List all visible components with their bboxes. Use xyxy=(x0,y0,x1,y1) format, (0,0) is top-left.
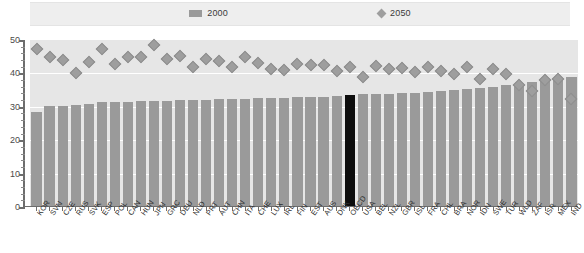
bar-slot-IND[interactable] xyxy=(565,40,578,207)
bar-2000-DEU[interactable] xyxy=(175,100,185,207)
bar-slot-WLD[interactable] xyxy=(513,40,526,207)
bar-slot-AUS[interactable] xyxy=(317,40,330,207)
bar-slot-FIN[interactable] xyxy=(291,40,304,207)
bar-2000-JPN[interactable] xyxy=(149,101,159,207)
bar-slot-AUT[interactable] xyxy=(213,40,226,207)
bar-slot-PRT[interactable] xyxy=(200,40,213,207)
marker-2050-IDN[interactable] xyxy=(474,72,487,85)
marker-2050-SVN[interactable] xyxy=(43,50,56,63)
bar-slot-BEL[interactable] xyxy=(369,40,382,207)
bar-2000-IDN[interactable] xyxy=(475,88,485,207)
marker-2050-LUX[interactable] xyxy=(265,63,278,76)
bar-slot-LUX[interactable] xyxy=(265,40,278,207)
bar-2000-USA[interactable] xyxy=(358,94,368,207)
marker-2050-ISL[interactable] xyxy=(409,66,422,79)
marker-2050-CHE[interactable] xyxy=(252,56,265,69)
bar-2000-FRA[interactable] xyxy=(423,92,433,207)
marker-2050-RUS[interactable] xyxy=(69,66,82,79)
marker-2050-NZL[interactable] xyxy=(382,63,395,76)
bar-2000-SVN[interactable] xyxy=(44,106,54,207)
marker-2050-ITA[interactable] xyxy=(239,51,252,64)
bar-slot-NLD[interactable] xyxy=(187,40,200,207)
bar-2000-AUT[interactable] xyxy=(214,99,224,207)
bar-2000-LUX[interactable] xyxy=(266,98,276,207)
marker-2050-GBR[interactable] xyxy=(395,62,408,75)
bar-slot-ITA[interactable] xyxy=(239,40,252,207)
bar-2000-NZL[interactable] xyxy=(384,94,394,207)
bar-slot-SVK[interactable] xyxy=(82,40,95,207)
bar-slot-FRA[interactable] xyxy=(421,40,434,207)
bar-slot-OECD[interactable] xyxy=(343,40,356,207)
bar-slot-BRA[interactable] xyxy=(448,40,461,207)
bar-slot-MEX[interactable] xyxy=(552,40,565,207)
bar-slot-ISR[interactable] xyxy=(539,40,552,207)
bar-2000-EST[interactable] xyxy=(305,97,315,207)
bar-slot-ESP[interactable] xyxy=(95,40,108,207)
bar-2000-CHE[interactable] xyxy=(253,98,263,207)
marker-2050-SVK[interactable] xyxy=(82,55,95,68)
bar-slot-NZL[interactable] xyxy=(382,40,395,207)
marker-2050-POL[interactable] xyxy=(108,58,121,71)
marker-2050-JPN[interactable] xyxy=(148,39,161,52)
bar-slot-EST[interactable] xyxy=(304,40,317,207)
bar-slot-CHN[interactable] xyxy=(226,40,239,207)
marker-2050-PRT[interactable] xyxy=(200,53,213,66)
bar-2000-ZAF[interactable] xyxy=(527,82,537,207)
marker-2050-HUN[interactable] xyxy=(135,51,148,64)
bar-2000-MEX[interactable] xyxy=(553,78,563,207)
bar-2000-CAN[interactable] xyxy=(123,102,133,207)
marker-2050-GRC[interactable] xyxy=(161,52,174,65)
bar-slot-CHL[interactable] xyxy=(434,40,447,207)
bar-2000-AUS[interactable] xyxy=(318,97,328,207)
bar-2000-SWE[interactable] xyxy=(488,87,498,207)
bar-slot-CAN[interactable] xyxy=(121,40,134,207)
bar-2000-ISR[interactable] xyxy=(540,80,550,207)
bar-slot-ISL[interactable] xyxy=(408,40,421,207)
bar-slot-USA[interactable] xyxy=(356,40,369,207)
bar-2000-GRC[interactable] xyxy=(162,101,172,207)
bar-2000-BRA[interactable] xyxy=(449,90,459,207)
bar-slot-KOR[interactable] xyxy=(30,40,43,207)
bar-2000-CHN[interactable] xyxy=(227,99,237,207)
marker-2050-CHN[interactable] xyxy=(226,61,239,74)
bar-2000-FIN[interactable] xyxy=(292,97,302,207)
bar-slot-GRC[interactable] xyxy=(160,40,173,207)
marker-2050-BRA[interactable] xyxy=(448,68,461,81)
marker-2050-IRL[interactable] xyxy=(278,63,291,76)
bar-slot-DEU[interactable] xyxy=(174,40,187,207)
bar-slot-CZE[interactable] xyxy=(56,40,69,207)
marker-2050-CZE[interactable] xyxy=(56,53,69,66)
bar-slot-NOR[interactable] xyxy=(461,40,474,207)
bar-2000-GBR[interactable] xyxy=(397,93,407,207)
bar-2000-BEL[interactable] xyxy=(371,94,381,207)
bar-2000-ESP[interactable] xyxy=(97,102,107,207)
marker-2050-FIN[interactable] xyxy=(291,58,304,71)
bar-2000-RUS[interactable] xyxy=(71,105,81,207)
bar-2000-TUR[interactable] xyxy=(501,85,511,207)
bar-2000-IRL[interactable] xyxy=(279,98,289,207)
marker-2050-CAN[interactable] xyxy=(121,51,134,64)
marker-2050-OECD[interactable] xyxy=(343,60,356,73)
marker-2050-KOR[interactable] xyxy=(30,43,43,56)
bar-slot-TUR[interactable] xyxy=(500,40,513,207)
bar-slot-SVN[interactable] xyxy=(43,40,56,207)
bar-slot-DNK[interactable] xyxy=(330,40,343,207)
bar-slot-SWE[interactable] xyxy=(487,40,500,207)
bar-slot-IDN[interactable] xyxy=(474,40,487,207)
marker-2050-NLD[interactable] xyxy=(187,60,200,73)
bar-2000-CHL[interactable] xyxy=(436,91,446,207)
bar-slot-IRL[interactable] xyxy=(278,40,291,207)
bar-2000-ISL[interactable] xyxy=(410,93,420,207)
bar-2000-DNK[interactable] xyxy=(332,96,342,207)
bar-slot-JPN[interactable] xyxy=(147,40,160,207)
marker-2050-EST[interactable] xyxy=(304,58,317,71)
marker-2050-ESP[interactable] xyxy=(95,43,108,56)
bar-slot-RUS[interactable] xyxy=(69,40,82,207)
marker-2050-TUR[interactable] xyxy=(500,68,513,81)
bar-2000-CZE[interactable] xyxy=(58,106,68,207)
bar-2000-HUN[interactable] xyxy=(136,101,146,207)
bar-slot-POL[interactable] xyxy=(108,40,121,207)
marker-2050-BEL[interactable] xyxy=(369,59,382,72)
bar-2000-NOR[interactable] xyxy=(462,89,472,207)
bar-2000-POL[interactable] xyxy=(110,102,120,207)
